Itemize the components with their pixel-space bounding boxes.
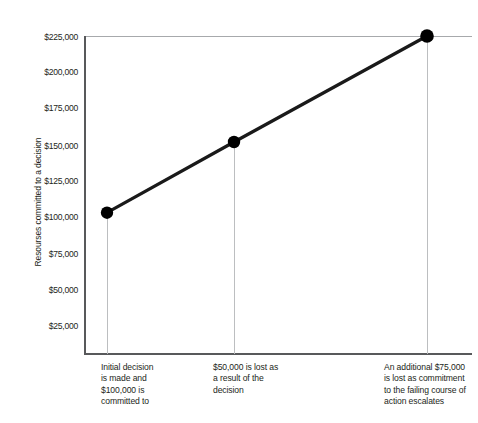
caption-line: action escalates — [384, 396, 478, 407]
caption-line: $100,000 is — [101, 385, 206, 396]
escalation-of-commitment-chart: Resourses committed to a decision $225,0… — [0, 0, 478, 423]
caption-initial-decision: Initial decision is made and $100,000 is… — [101, 362, 206, 408]
caption-line: An additional $75,000 — [384, 362, 478, 373]
caption-line: committed to — [101, 396, 206, 407]
series-line — [107, 36, 427, 213]
data-point-marker[interactable] — [101, 207, 113, 219]
caption-line: decision — [213, 385, 343, 396]
caption-line: is made and — [101, 373, 206, 384]
caption-escalated-commitment: An additional $75,000 is lost as commitm… — [384, 362, 478, 408]
caption-line: $50,000 is lost as — [213, 362, 343, 373]
caption-line: is lost as commitment — [384, 373, 478, 384]
data-point-marker[interactable] — [228, 136, 240, 148]
caption-line: a result of the — [213, 373, 343, 384]
series-plot — [0, 0, 478, 423]
caption-loss-after-decision: $50,000 is lost as a result of the decis… — [213, 362, 343, 396]
caption-line: to the failing course of — [384, 385, 478, 396]
caption-line: Initial decision — [101, 362, 206, 373]
data-point-marker[interactable] — [420, 29, 434, 43]
